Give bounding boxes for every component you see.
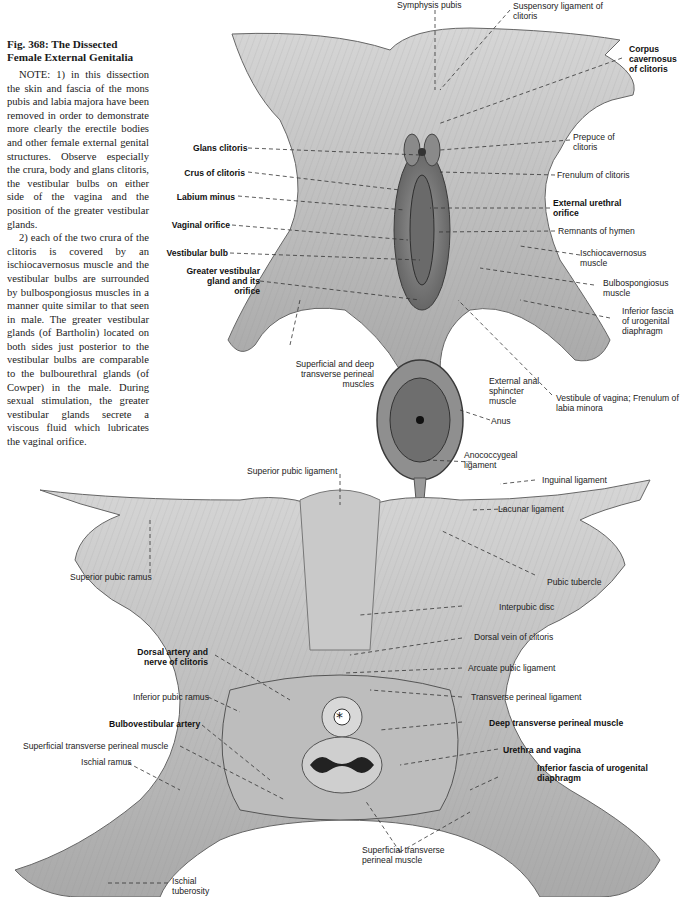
label-deep-transverse-perineal: Deep transverse perineal muscle <box>489 718 623 728</box>
caption-note-2: 2) each of the two crura of the clitoris… <box>7 231 149 449</box>
label-pubic-tubercle: Pubic tubercle <box>547 577 601 587</box>
caption-note-1: NOTE: 1) in this dissection the skin and… <box>7 68 149 231</box>
label-remnants-hymen: Remnants of hymen <box>558 226 635 236</box>
label-bulbovestibular-artery: Bulbovestibular artery <box>109 719 200 729</box>
label-suspensory-ligament: Suspensory ligament of clitoris <box>513 1 608 21</box>
label-anus: Anus <box>491 416 511 426</box>
label-bulbospongiosus: Bulbospongiosus muscle <box>603 278 681 298</box>
label-prepuce: Prepuce of clitoris <box>573 132 628 152</box>
label-dorsal-artery-nerve: Dorsal artery and nerve of clitoris <box>118 647 208 667</box>
label-labium-minus: Labium minus <box>175 192 235 202</box>
label-dorsal-vein: Dorsal vein of clitoris <box>474 632 553 642</box>
label-external-anal-sphincter: External anal sphincter muscle <box>489 376 549 406</box>
label-inferior-fascia-urogenital: Inferior fascia of urogenital diaphragm <box>537 763 677 783</box>
label-vaginal-orifice: Vaginal orifice <box>160 220 230 230</box>
svg-text:*: * <box>336 709 343 725</box>
label-interpubic-disc: Interpubic disc <box>499 602 554 612</box>
label-transverse-perineal-ligament: Transverse perineal ligament <box>471 692 582 702</box>
label-inguinal-ligament: Inguinal ligament <box>542 475 607 485</box>
label-glans-clitoris: Glans clitoris <box>193 143 245 153</box>
label-inferior-pubic-ramus: Inferior pubic ramus <box>133 692 209 702</box>
label-vestibular-bulb: Vestibular bulb <box>160 248 228 258</box>
label-urethra-vagina: Urethra and vagina <box>503 745 581 755</box>
figure-caption: Fig. 368: The Dissected Female External … <box>7 38 149 449</box>
label-lacunar-ligament: Lacunar ligament <box>498 504 564 514</box>
label-ischial-ramus: Ischial ramus <box>81 757 132 767</box>
lower-figure-art: * <box>15 480 660 897</box>
caption-title: Fig. 368: The Dissected Female External … <box>7 38 149 64</box>
label-ischial-tuberosity: Ischial tuberosity <box>172 876 222 896</box>
label-transverse-perineal: Superficial and deep transverse perineal… <box>282 359 374 389</box>
label-superior-pubic-ligament: Superior pubic ligament <box>247 466 337 476</box>
label-inferior-fascia: Inferior fascia of urogenital diaphragm <box>622 306 683 336</box>
label-greater-vestibular-gland: Greater vestibular gland and its orifice <box>180 266 260 296</box>
label-corpus-cavernosus: Corpus cavernosus of clitoris <box>629 44 683 74</box>
label-external-urethral-orifice: External urethral orifice <box>553 198 623 218</box>
label-superficial-transverse-perineal-bottom: Superficial transverse perineal muscle <box>362 845 472 865</box>
label-ischiocavernosus: Ischiocavernosus muscle <box>580 248 660 268</box>
label-arcuate-pubic-ligament: Arcuate pubic ligament <box>468 663 555 673</box>
upper-figure-art <box>228 28 634 500</box>
label-symphysis-pubis: Symphysis pubis <box>397 0 461 10</box>
label-superficial-transverse-perineal-left: Superficial transverse perineal muscle <box>23 741 168 751</box>
label-vestibule-vagina: Vestibule of vagina; Frenulum of labia m… <box>556 393 683 413</box>
label-frenulum-clitoris: Frenulum of clitoris <box>557 170 630 180</box>
label-anococcygeal: Anococcygeal ligament <box>464 450 526 470</box>
label-crus-clitoris: Crus of clitoris <box>178 168 245 178</box>
label-superior-pubic-ramus: Superior pubic ramus <box>70 572 152 582</box>
